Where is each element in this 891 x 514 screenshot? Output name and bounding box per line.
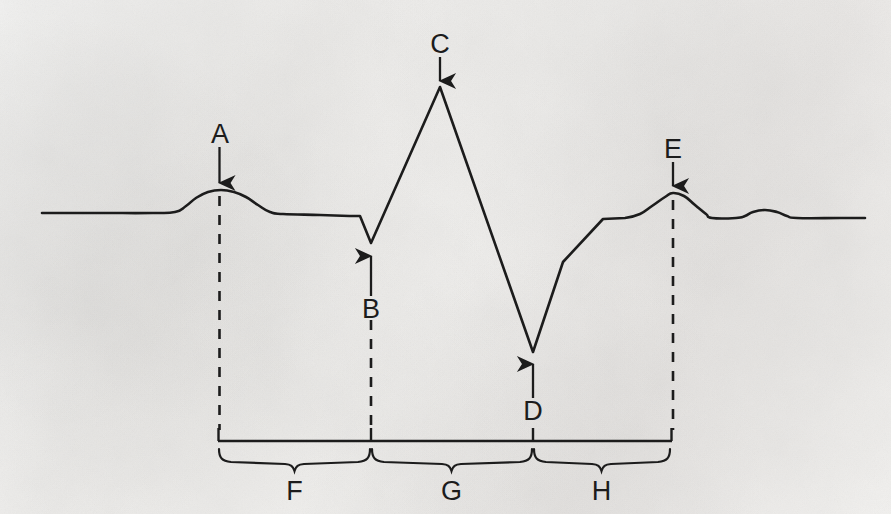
dropline-group [220,196,674,430]
interval-axis-bar [218,428,672,441]
ecg-diagram: A B C D E F G H [0,0,891,514]
label-c: C [430,29,450,59]
brace-h [534,449,670,471]
figure-canvas: A B C D E F G H [0,0,891,514]
label-group: A B C D E F G H [211,29,682,506]
brace-g [372,449,532,471]
label-f: F [286,476,303,506]
ecg-trace-group [42,87,865,352]
brace-f [219,449,370,471]
ecg-waveform-path [42,87,865,352]
label-g: G [441,476,462,506]
label-e: E [664,134,682,164]
label-d: D [523,396,543,426]
label-a: A [211,119,229,149]
label-b: B [362,294,380,324]
label-h: H [592,476,612,506]
interval-brace-group [219,449,670,471]
